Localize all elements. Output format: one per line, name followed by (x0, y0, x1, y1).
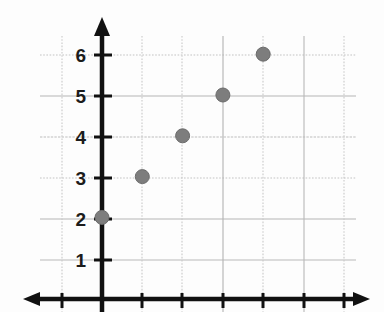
y-tick-label-2: 2 (64, 210, 86, 229)
x-axis (23, 292, 370, 308)
data-point (176, 129, 190, 143)
plot-canvas (0, 0, 384, 312)
data-point (216, 88, 230, 102)
y-tick-label-1: 1 (64, 251, 86, 270)
y-tick-label-3: 3 (64, 169, 86, 188)
y-tick-label-5: 5 (64, 87, 86, 106)
data-point (95, 210, 109, 224)
y-axis-arrow-up (94, 17, 110, 36)
x-axis-arrow-left (23, 292, 40, 306)
y-tick-label-4: 4 (64, 128, 86, 147)
y-axis (94, 17, 112, 312)
data-point (135, 170, 149, 184)
scatter-plot-figure: 654321 (0, 0, 384, 312)
horizontal-gridlines (40, 55, 356, 260)
data-points (95, 47, 270, 224)
vertical-gridlines (62, 36, 344, 312)
x-axis-arrow-right (353, 292, 370, 306)
data-point (256, 47, 270, 61)
y-tick-label-6: 6 (64, 46, 86, 65)
